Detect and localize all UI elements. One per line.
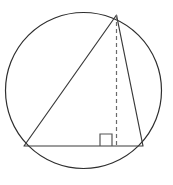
geometry-canvas (0, 0, 173, 185)
geometry-figure (0, 0, 173, 185)
figure-background (0, 0, 173, 185)
